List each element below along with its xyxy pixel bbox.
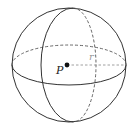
sphere-diagram: P r — [0, 0, 135, 130]
sphere-svg — [0, 0, 135, 130]
equator-back-dashed — [12, 45, 126, 65]
center-point — [65, 63, 70, 68]
equator-front — [12, 65, 126, 85]
center-label: P — [56, 64, 63, 77]
radius-label: r — [89, 51, 94, 62]
